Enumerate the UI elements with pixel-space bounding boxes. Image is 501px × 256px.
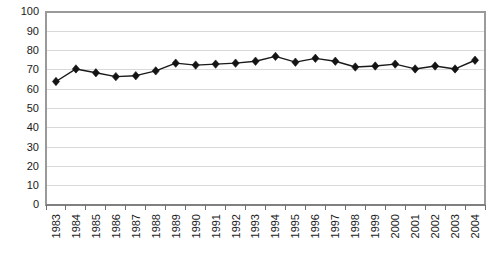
x-tick-label: 1989 xyxy=(170,214,182,238)
x-tick-label: 1984 xyxy=(70,214,82,238)
x-tick-label: 1992 xyxy=(230,214,242,238)
x-tick-label: 1991 xyxy=(210,214,222,238)
y-tick-label: 40 xyxy=(27,121,39,133)
x-tick-label: 2000 xyxy=(389,214,401,238)
x-tick-label: 1988 xyxy=(150,214,162,238)
x-tick-label: 2003 xyxy=(449,214,461,238)
y-tick-label: 50 xyxy=(27,102,39,114)
data-point-marker xyxy=(392,60,399,68)
x-tick-label: 2002 xyxy=(429,214,441,238)
y-tick-label: 10 xyxy=(27,179,39,191)
y-tick-label: 20 xyxy=(27,160,39,172)
data-point-marker xyxy=(112,72,119,80)
data-point-marker xyxy=(471,56,478,64)
chart-canvas: 0102030405060708090100198319841985198619… xyxy=(0,0,501,256)
x-tick-label: 1994 xyxy=(269,214,281,238)
data-point-marker xyxy=(152,67,159,75)
data-point-marker xyxy=(192,61,199,69)
data-point-marker xyxy=(232,59,239,67)
x-tick-label: 1986 xyxy=(110,214,122,238)
y-tick-label: 60 xyxy=(27,83,39,95)
data-point-marker xyxy=(451,65,458,73)
x-axis xyxy=(46,205,485,210)
x-tick-label: 1987 xyxy=(130,214,142,238)
x-tick-label: 1997 xyxy=(329,214,341,238)
y-axis-labels: 0102030405060708090100 xyxy=(21,5,39,210)
y-tick-label: 0 xyxy=(33,198,39,210)
line-chart-figure: 0102030405060708090100198319841985198619… xyxy=(0,0,501,256)
data-point-marker xyxy=(432,62,439,70)
y-tick-label: 90 xyxy=(27,25,39,37)
data-point-marker xyxy=(172,59,179,67)
x-tick-label: 1985 xyxy=(90,214,102,238)
x-tick-label: 1998 xyxy=(349,214,361,238)
y-tick-label: 30 xyxy=(27,141,39,153)
data-point-marker xyxy=(332,57,339,65)
data-point-marker xyxy=(372,62,379,70)
data-point-marker xyxy=(252,57,259,65)
x-tick-label: 1990 xyxy=(190,214,202,238)
x-tick-label: 1996 xyxy=(309,214,321,238)
data-point-marker xyxy=(272,52,279,60)
data-point-marker xyxy=(212,60,219,68)
x-tick-label: 1999 xyxy=(369,214,381,238)
x-tick-label: 1983 xyxy=(50,214,62,238)
x-tick-label: 1995 xyxy=(289,214,301,238)
data-point-marker xyxy=(52,77,59,85)
data-point-marker xyxy=(292,58,299,66)
data-point-marker xyxy=(312,54,319,62)
x-tick-label: 1993 xyxy=(249,214,261,238)
x-tick-label: 2001 xyxy=(409,214,421,238)
grid-lines xyxy=(46,12,485,186)
data-series-0 xyxy=(52,52,478,85)
y-tick-label: 100 xyxy=(21,5,39,17)
data-point-marker xyxy=(412,65,419,73)
x-axis-labels: 1983198419851986198719881989199019911992… xyxy=(50,214,481,238)
data-point-marker xyxy=(72,65,79,73)
y-tick-label: 70 xyxy=(27,63,39,75)
x-tick-label: 2004 xyxy=(469,214,481,238)
data-point-marker xyxy=(132,71,139,79)
y-tick-label: 80 xyxy=(27,44,39,56)
